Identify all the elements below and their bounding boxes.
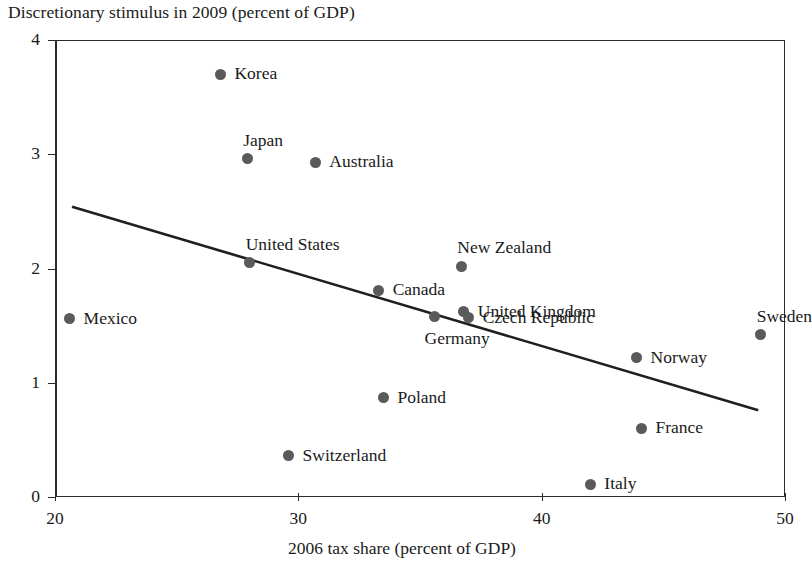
x-axis-tick-label: 50 bbox=[763, 508, 807, 529]
data-point-label: Germany bbox=[425, 330, 490, 348]
data-point-label: Australia bbox=[329, 153, 393, 171]
chart-title: Discretionary stimulus in 2009 (percent … bbox=[8, 2, 355, 23]
data-point bbox=[636, 423, 647, 434]
y-axis-tick-label: 4 bbox=[6, 29, 40, 50]
y-axis-tick-label: 0 bbox=[6, 486, 40, 507]
data-point-label: Japan bbox=[243, 132, 283, 150]
x-axis-tick-label: 20 bbox=[33, 508, 77, 529]
data-point-label: France bbox=[655, 419, 703, 437]
data-point-label: Poland bbox=[398, 389, 447, 407]
data-point bbox=[456, 261, 467, 272]
x-axis-tick bbox=[785, 493, 786, 501]
x-axis-tick-label: 30 bbox=[276, 508, 320, 529]
data-point-label: Canada bbox=[393, 281, 445, 299]
data-point-label: New Zealand bbox=[457, 239, 551, 257]
data-point-label: Sweden bbox=[757, 308, 812, 326]
y-axis-tick-label: 1 bbox=[6, 372, 40, 393]
data-point bbox=[585, 479, 596, 490]
data-point bbox=[242, 153, 253, 164]
x-axis-tick-label: 40 bbox=[520, 508, 564, 529]
data-point-label: Czech Republic bbox=[483, 309, 594, 327]
data-point-label: United States bbox=[246, 236, 340, 254]
data-point bbox=[373, 285, 384, 296]
data-point-label: Italy bbox=[604, 475, 636, 493]
data-point-label: Korea bbox=[234, 65, 277, 83]
y-axis-tick bbox=[48, 154, 56, 155]
y-axis-tick bbox=[48, 383, 56, 384]
x-axis-title: 2006 tax share (percent of GDP) bbox=[0, 538, 804, 559]
data-point bbox=[215, 69, 226, 80]
data-point bbox=[310, 157, 321, 168]
x-axis-tick bbox=[542, 493, 543, 501]
data-point bbox=[429, 311, 440, 322]
y-axis-tick bbox=[48, 40, 56, 41]
y-axis-tick-label: 2 bbox=[6, 258, 40, 279]
data-point-label: Switzerland bbox=[303, 447, 387, 465]
x-axis-tick bbox=[298, 493, 299, 501]
x-axis-tick bbox=[55, 493, 56, 501]
y-axis-tick-label: 3 bbox=[6, 143, 40, 164]
y-axis-tick bbox=[48, 269, 56, 270]
data-point-label: Norway bbox=[651, 349, 707, 367]
data-point-label: Mexico bbox=[84, 310, 137, 328]
